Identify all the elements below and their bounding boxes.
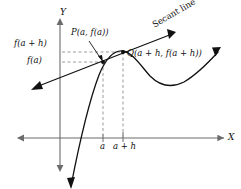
- curve-arrow-bottom: [67, 177, 75, 189]
- x-axis-label: X: [228, 133, 234, 142]
- secant-arrow-left: [31, 81, 43, 90]
- y-axis: [57, 18, 64, 172]
- x-value-label-a-plus-h: a + h: [113, 142, 136, 151]
- curve-arrow-right: [212, 47, 221, 57]
- y-axis-label: Y: [60, 8, 66, 17]
- p-leader-arrowhead: [98, 55, 103, 62]
- secant-arrow-right: [167, 29, 176, 39]
- point-p-label: P(a, f(a)): [71, 28, 109, 37]
- point-q-marker: [121, 50, 125, 54]
- function-curve: [67, 47, 221, 189]
- secant-line-diagram: Y X f(a + h) f(a) a a + h P(a, f(a)) Q(a…: [0, 0, 241, 189]
- x-value-label-a: a: [100, 142, 105, 151]
- y-value-label-f-a: f(a): [27, 56, 42, 65]
- diagram-canvas: [0, 0, 241, 189]
- point-q-label: Q(a + h, f(a + h)): [127, 49, 202, 58]
- y-value-label-f-a-plus-h: f(a + h): [14, 39, 47, 48]
